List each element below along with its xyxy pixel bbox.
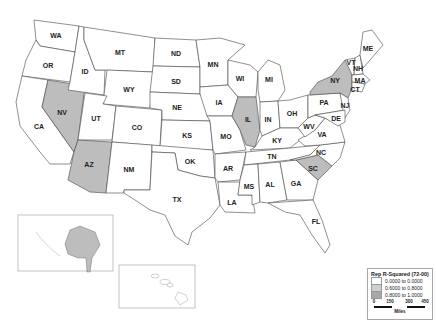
state-label-wy: WY (123, 86, 134, 93)
state-label-or: OR (43, 62, 54, 69)
state-label-nd: ND (171, 50, 181, 57)
state-label-ny: NY (330, 77, 340, 84)
state-label-mt: MT (115, 49, 125, 56)
state-label-nm: NM (124, 166, 135, 173)
state-label-ut: UT (91, 115, 100, 122)
state-label-nh: NH (353, 65, 363, 72)
state-label-oh: OH (287, 110, 298, 117)
scale-bar-segment (374, 306, 392, 308)
state-label-fl: FL (312, 218, 321, 225)
state-label-ar: AR (223, 165, 233, 172)
legend-label: 0.6000 to 0.8000 (385, 285, 423, 291)
state-label-mi: MI (265, 76, 273, 83)
state-label-ok: OK (185, 158, 196, 165)
state-label-sd: SD (171, 78, 181, 85)
state-label-in: IN (265, 116, 272, 123)
state-label-wv: WV (303, 123, 314, 130)
state-label-mn: MN (208, 61, 219, 68)
state-label-tn: TN (267, 153, 276, 160)
state-label-ms: MS (244, 183, 255, 190)
state-label-ga: GA (291, 180, 302, 187)
state-label-ca: CA (34, 123, 44, 130)
legend-item: 0.8000 to 1.0000 (371, 291, 432, 298)
state-label-va: VA (317, 131, 326, 138)
state-label-tx: TX (173, 196, 182, 203)
state-label-sc: SC (308, 165, 318, 172)
state-label-de: DE (331, 115, 341, 122)
state-label-wa: WA (50, 32, 61, 39)
state-label-ky: KY (272, 137, 282, 144)
scale-tick: 300 (405, 299, 413, 304)
state-label-me: ME (363, 45, 374, 52)
scale-unit: Miles (394, 309, 405, 314)
scale-tick: 450 (421, 299, 429, 304)
scale-bar: 0 150 300 450 Miles (368, 299, 432, 315)
state-fl (268, 200, 330, 253)
state-label-pa: PA (319, 99, 328, 106)
state-label-nc: NC (316, 149, 326, 156)
scale-tick: 0 (373, 299, 376, 304)
state-label-nj: NJ (341, 102, 350, 109)
state-label-wi: WI (236, 75, 245, 82)
state-label-la: LA (227, 199, 236, 206)
legend: Rep R-Squared (72-00) 0.0000 to 0.0000 0… (367, 268, 433, 320)
state-label-ia: IA (216, 99, 223, 106)
state-label-ma: MA (355, 77, 366, 84)
state-label-nv: NV (57, 109, 67, 116)
state-label-id: ID (82, 68, 89, 75)
state-label-il: IL (245, 116, 251, 123)
state-label-mo: MO (220, 133, 231, 140)
state-label-al: AL (265, 181, 274, 188)
legend-swatch-high (371, 291, 382, 299)
state-label-co: CO (132, 124, 143, 131)
scale-tick: 150 (386, 299, 394, 304)
scale-bar-segment (407, 306, 425, 308)
state-label-ct: CT (350, 86, 359, 93)
legend-label: 0.0000 to 0.0000 (385, 278, 423, 284)
legend-label: 0.8000 to 1.0000 (385, 292, 423, 298)
state-label-az: AZ (84, 161, 93, 168)
state-label-ne: NE (172, 104, 182, 111)
state-label-ks: KS (182, 132, 192, 139)
